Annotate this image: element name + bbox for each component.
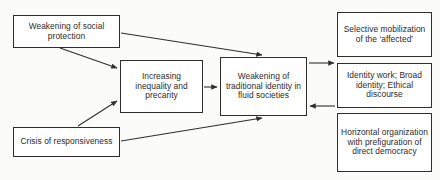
node-horizontal-organization: Horizontal organization with prefigurati… bbox=[337, 113, 432, 172]
node-label: Selective mobilization of the ‘affected’ bbox=[341, 25, 428, 45]
edge-social-protection-to-identity bbox=[121, 33, 262, 55]
node-label: Weakening of traditional identity in flu… bbox=[224, 72, 303, 102]
node-label: Weakening of social protection bbox=[17, 22, 116, 42]
edge-responsiveness-to-inequality bbox=[78, 101, 117, 126]
node-crisis-of-responsiveness: Crisis of responsiveness bbox=[13, 127, 120, 157]
node-identity-work: Identity work; Broad identity; Ethical d… bbox=[337, 63, 432, 108]
edge-social-protection-to-inequality bbox=[60, 48, 117, 68]
node-weakening-of-traditional-identity: Weakening of traditional identity in flu… bbox=[220, 57, 307, 116]
node-label: Horizontal organization with prefigurati… bbox=[341, 128, 428, 158]
flow-diagram: Weakening of social protection Increasin… bbox=[0, 0, 440, 180]
node-increasing-inequality-and-precarity: Increasing inequality and precarity bbox=[120, 60, 203, 113]
node-selective-mobilization: Selective mobilization of the ‘affected’ bbox=[337, 12, 432, 57]
node-weakening-of-social-protection: Weakening of social protection bbox=[13, 15, 120, 48]
node-label: Identity work; Broad identity; Ethical d… bbox=[341, 71, 428, 101]
edge-responsiveness-to-identity bbox=[121, 118, 262, 141]
node-label: Increasing inequality and precarity bbox=[124, 72, 199, 102]
node-label: Crisis of responsiveness bbox=[17, 137, 116, 147]
